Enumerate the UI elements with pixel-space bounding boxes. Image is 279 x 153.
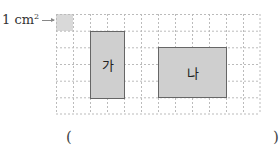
shape-na-label: 나 [187,63,199,82]
shape-ga: 가 [90,31,125,99]
answer-close-paren: ) [273,128,279,146]
arrow-icon [42,20,54,21]
unit-area-label: 1 cm2 [2,12,39,27]
grid-paper: 가 나 [56,14,260,114]
shape-ga-label: 가 [102,55,114,74]
shape-na: 나 [158,47,227,98]
answer-open-paren: ( [66,128,72,146]
